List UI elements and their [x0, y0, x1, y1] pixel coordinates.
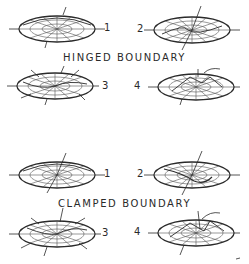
clamped-mode-1-label: 1	[104, 168, 116, 179]
hinged-mode-4-label: 4	[134, 80, 146, 91]
stray-mark	[236, 258, 240, 259]
hinged-boundary-title: HINGED BOUNDARY	[0, 52, 249, 63]
plate-modes-figure	[0, 0, 249, 264]
hinged-mode-2-label: 2	[137, 23, 149, 34]
clamped-boundary-title: CLAMPED BOUNDARY	[0, 198, 249, 209]
clamped-mode-4-plate	[148, 211, 240, 255]
hinged-mode-3-plate	[7, 66, 99, 105]
clamped-mode-1-plate	[9, 153, 105, 193]
hinged-mode-3-label: 3	[102, 80, 114, 91]
clamped-mode-3-plate	[9, 208, 101, 256]
clamped-mode-2-plate	[144, 151, 240, 195]
hinged-mode-1-label: 1	[104, 22, 116, 33]
clamped-mode-4-label: 4	[134, 226, 146, 237]
hinged-mode-4-plate	[148, 69, 240, 106]
hinged-mode-2-plate	[144, 6, 240, 50]
clamped-mode-3-label: 3	[102, 227, 114, 238]
clamped-mode-2-label: 2	[137, 168, 149, 179]
hinged-mode-1-plate	[9, 7, 105, 48]
